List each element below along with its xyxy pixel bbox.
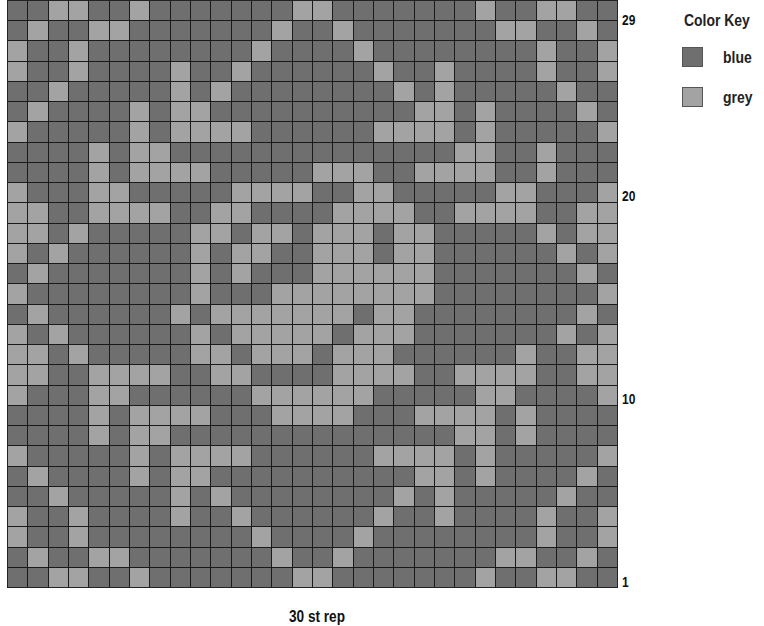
chart-cell bbox=[516, 102, 535, 121]
chart-cell bbox=[211, 548, 230, 567]
chart-cell bbox=[455, 345, 474, 364]
chart-cell bbox=[435, 345, 454, 364]
chart-cell bbox=[272, 62, 291, 81]
chart-cell bbox=[354, 426, 373, 445]
chart-cell bbox=[374, 264, 393, 283]
chart-cell bbox=[69, 41, 88, 60]
chart-cell bbox=[415, 224, 434, 243]
chart-cell bbox=[8, 203, 27, 222]
chart-cell bbox=[476, 446, 495, 465]
chart-cell bbox=[435, 487, 454, 506]
chart-cell bbox=[415, 426, 434, 445]
chart-cell bbox=[598, 507, 617, 526]
chart-cell bbox=[435, 163, 454, 182]
chart-cell bbox=[496, 386, 515, 405]
chart-cell bbox=[537, 21, 556, 40]
chart-cell bbox=[252, 406, 271, 425]
chart-cell bbox=[313, 224, 332, 243]
chart-cell bbox=[232, 365, 251, 384]
chart-cell bbox=[150, 122, 169, 141]
chart-cell bbox=[374, 365, 393, 384]
chart-cell bbox=[455, 568, 474, 587]
chart-cell bbox=[272, 487, 291, 506]
chart-cell bbox=[476, 224, 495, 243]
chart-cell bbox=[232, 224, 251, 243]
chart-cell bbox=[415, 386, 434, 405]
chart-cell bbox=[191, 183, 210, 202]
chart-cell bbox=[191, 527, 210, 546]
chart-cell bbox=[557, 82, 576, 101]
chart-cell bbox=[435, 264, 454, 283]
chart-cell bbox=[557, 62, 576, 81]
chart-cell bbox=[232, 568, 251, 587]
chart-cell bbox=[130, 507, 149, 526]
chart-cell bbox=[415, 284, 434, 303]
chart-cell bbox=[110, 406, 129, 425]
chart-cell bbox=[577, 62, 596, 81]
chart-cell bbox=[130, 41, 149, 60]
chart-cell bbox=[89, 467, 108, 486]
chart-cell bbox=[150, 1, 169, 20]
chart-cell bbox=[333, 426, 352, 445]
chart-cell bbox=[537, 183, 556, 202]
chart-cell bbox=[496, 568, 515, 587]
chart-cell bbox=[577, 1, 596, 20]
chart-cell bbox=[577, 568, 596, 587]
chart-cell bbox=[69, 386, 88, 405]
chart-cell bbox=[8, 386, 27, 405]
chart-cell bbox=[435, 122, 454, 141]
chart-cell bbox=[272, 305, 291, 324]
chart-cell bbox=[49, 325, 68, 344]
chart-cell bbox=[476, 102, 495, 121]
chart-cell bbox=[49, 568, 68, 587]
row-label-20: 20 bbox=[622, 188, 635, 203]
chart-cell bbox=[28, 62, 47, 81]
chart-cell bbox=[28, 507, 47, 526]
chart-cell bbox=[354, 1, 373, 20]
chart-cell bbox=[354, 143, 373, 162]
chart-cell bbox=[557, 203, 576, 222]
chart-cell bbox=[374, 568, 393, 587]
chart-cell bbox=[110, 143, 129, 162]
grey-swatch-icon bbox=[682, 87, 703, 107]
chart-cell bbox=[516, 365, 535, 384]
chart-cell bbox=[252, 183, 271, 202]
chart-cell bbox=[598, 244, 617, 263]
chart-cell bbox=[171, 527, 190, 546]
chart-cell bbox=[333, 21, 352, 40]
chart-cell bbox=[252, 467, 271, 486]
chart-cell bbox=[415, 325, 434, 344]
chart-cell bbox=[110, 183, 129, 202]
chart-cell bbox=[557, 527, 576, 546]
chart-cell bbox=[191, 568, 210, 587]
chart-cell bbox=[8, 1, 27, 20]
chart-cell bbox=[130, 1, 149, 20]
chart-cell bbox=[537, 244, 556, 263]
chart-cell bbox=[394, 183, 413, 202]
chart-cell bbox=[49, 386, 68, 405]
chart-cell bbox=[89, 62, 108, 81]
chart-cell bbox=[28, 568, 47, 587]
chart-cell bbox=[89, 446, 108, 465]
chart-cell bbox=[577, 183, 596, 202]
chart-cell bbox=[313, 183, 332, 202]
chart-cell bbox=[69, 568, 88, 587]
chart-cell bbox=[110, 244, 129, 263]
chart-cell bbox=[496, 82, 515, 101]
chart-cell bbox=[435, 244, 454, 263]
chart-cell bbox=[598, 102, 617, 121]
chart-cell bbox=[211, 163, 230, 182]
chart-cell bbox=[557, 446, 576, 465]
chart-cell bbox=[455, 264, 474, 283]
chart-cell bbox=[232, 264, 251, 283]
chart-cell bbox=[415, 122, 434, 141]
blue-swatch-icon bbox=[682, 47, 703, 67]
chart-cell bbox=[496, 426, 515, 445]
chart-cell bbox=[150, 426, 169, 445]
chart-cell bbox=[496, 203, 515, 222]
chart-cell bbox=[69, 527, 88, 546]
chart-cell bbox=[537, 446, 556, 465]
chart-cell bbox=[49, 41, 68, 60]
chart-cell bbox=[455, 426, 474, 445]
chart-cell bbox=[516, 143, 535, 162]
